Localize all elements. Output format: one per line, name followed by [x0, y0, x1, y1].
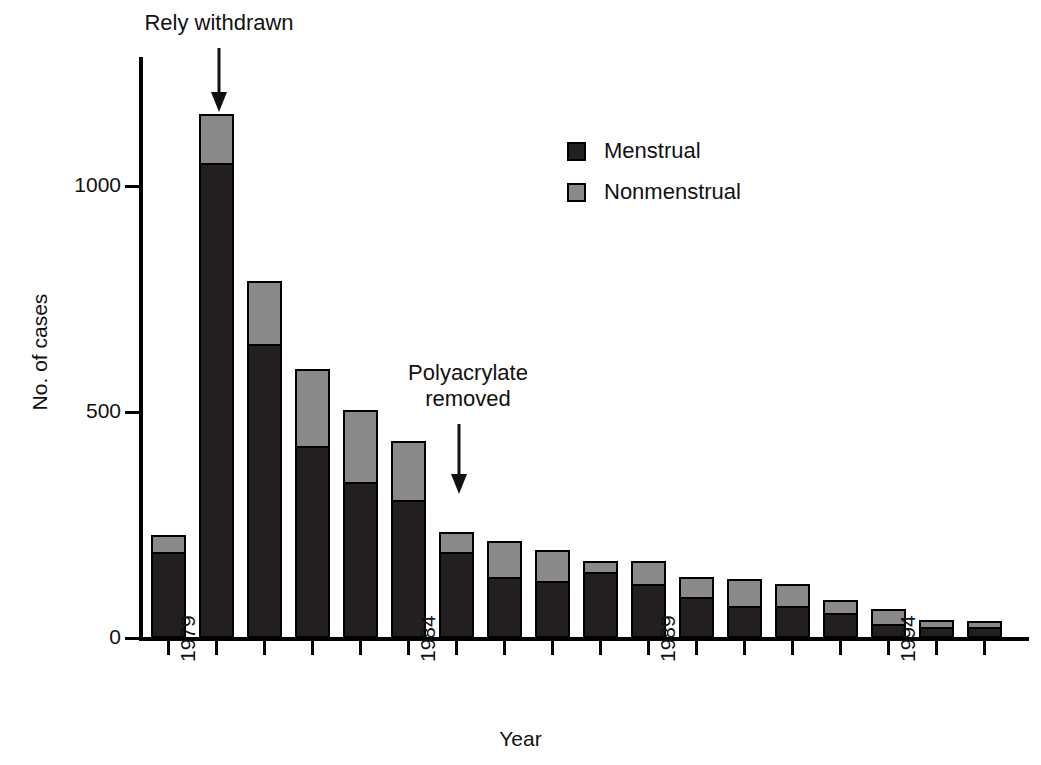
bar-segment-menstrual-1990 — [681, 595, 712, 636]
bar-1987 — [535, 550, 570, 638]
x-tick-1989 — [647, 641, 650, 655]
x-tick-1987 — [551, 641, 554, 655]
y-tick-1000 — [125, 185, 140, 188]
bar-segment-nonmenstrual-1995 — [921, 622, 952, 629]
down-arrow-icon — [442, 424, 476, 496]
bar-segment-nonmenstrual-1996 — [969, 623, 1000, 628]
y-axis-line — [139, 57, 143, 641]
bar-segment-nonmenstrual-1981 — [249, 283, 280, 346]
bar-1993 — [823, 600, 858, 638]
bar-segment-nonmenstrual-1992 — [777, 586, 808, 609]
y-tick-label-wrap-1000: 1000 — [0, 174, 121, 195]
bar-segment-nonmenstrual-1987 — [537, 552, 568, 584]
bar-segment-menstrual-1980 — [201, 161, 232, 636]
bar-1986 — [487, 541, 522, 638]
bar-segment-nonmenstrual-1990 — [681, 579, 712, 599]
bar-segment-menstrual-1987 — [537, 579, 568, 636]
x-tick-1980 — [215, 641, 218, 655]
bar-1990 — [679, 577, 714, 638]
bar-segment-menstrual-1986 — [489, 575, 520, 636]
x-tick-1984 — [407, 641, 410, 655]
bar-1991 — [727, 579, 762, 638]
bar-segment-nonmenstrual-1986 — [489, 543, 520, 579]
bar-segment-nonmenstrual-1982 — [297, 371, 328, 448]
bar-1983 — [343, 410, 378, 638]
x-tick-1988 — [599, 641, 602, 655]
y-tick-label-1000: 1000 — [74, 174, 121, 195]
legend: Menstrual Nonmenstrual — [567, 140, 741, 222]
bar-segment-nonmenstrual-1980 — [201, 116, 232, 166]
bar-segment-menstrual-1992 — [777, 604, 808, 636]
x-tick-1994 — [887, 641, 890, 655]
x-tick-1979 — [167, 641, 170, 655]
bar-segment-menstrual-1991 — [729, 604, 760, 636]
annotation-rely-withdrawn: Rely withdrawn — [104, 10, 334, 36]
bar-1988 — [583, 561, 618, 638]
x-tick-1992 — [791, 641, 794, 655]
annotation-polyacrylate-removed-text: Polyacrylate removed — [378, 360, 558, 412]
legend-item-menstrual: Menstrual — [567, 140, 741, 162]
bar-1992 — [775, 584, 810, 638]
x-tick-label-1994: 1994 — [897, 615, 918, 662]
bar-segment-nonmenstrual-1979 — [153, 537, 184, 554]
bar-1995 — [919, 620, 954, 638]
down-arrow-icon — [202, 48, 236, 114]
bar-segment-nonmenstrual-1984 — [393, 443, 424, 502]
figure-stacked-bar-chart: 0 500 1000 No. of cases Year 19791984198… — [0, 0, 1041, 765]
x-tick-1993 — [839, 641, 842, 655]
y-tick-label-500: 500 — [86, 400, 121, 421]
x-tick-1986 — [503, 641, 506, 655]
x-tick-1981 — [263, 641, 266, 655]
bar-segment-menstrual-1982 — [297, 444, 328, 636]
bar-segment-menstrual-1981 — [249, 342, 280, 636]
bar-segment-nonmenstrual-1983 — [345, 412, 376, 484]
x-tick-1983 — [359, 641, 362, 655]
x-tick-label-1989: 1989 — [657, 615, 678, 662]
x-tick-label-1984: 1984 — [417, 615, 438, 662]
legend-swatch-nonmenstrual — [567, 183, 586, 202]
legend-item-nonmenstrual: Nonmenstrual — [567, 181, 741, 203]
y-tick-500 — [125, 411, 140, 414]
bar-segment-nonmenstrual-1989 — [633, 563, 664, 586]
bar-segment-nonmenstrual-1993 — [825, 602, 856, 616]
x-tick-1991 — [743, 641, 746, 655]
legend-label-nonmenstrual: Nonmenstrual — [604, 181, 741, 203]
annotation-polyacrylate-removed: Polyacrylate removed — [378, 360, 558, 412]
bar-1985 — [439, 532, 474, 638]
bar-1981 — [247, 281, 282, 638]
annotation-rely-withdrawn-text: Rely withdrawn — [104, 10, 334, 36]
x-tick-1996 — [983, 641, 986, 655]
bar-segment-nonmenstrual-1991 — [729, 581, 760, 608]
legend-label-menstrual: Menstrual — [604, 140, 701, 162]
bar-1996 — [967, 621, 1002, 638]
x-tick-1985 — [455, 641, 458, 655]
bar-1982 — [295, 369, 330, 638]
bar-1984 — [391, 441, 426, 638]
x-tick-1982 — [311, 641, 314, 655]
x-axis-title: Year — [0, 727, 1041, 751]
bar-segment-menstrual-1988 — [585, 570, 616, 636]
y-tick-label-wrap-0: 0 — [0, 626, 121, 647]
bar-segment-nonmenstrual-1988 — [585, 563, 616, 574]
y-tick-label-0: 0 — [109, 626, 121, 647]
bar-segment-menstrual-1985 — [441, 550, 472, 636]
bar-segment-nonmenstrual-1985 — [441, 534, 472, 554]
bar-segment-menstrual-1983 — [345, 480, 376, 636]
x-tick-label-1979: 1979 — [177, 615, 198, 662]
legend-swatch-menstrual — [567, 142, 586, 161]
x-tick-1995 — [935, 641, 938, 655]
plot-area: 0 500 1000 No. of cases Year 19791984198… — [0, 0, 1041, 765]
y-tick-0 — [125, 637, 140, 640]
bar-1980 — [199, 114, 234, 638]
y-axis-title: No. of cases — [28, 252, 52, 452]
x-tick-1990 — [695, 641, 698, 655]
y-tick-label-wrap-500: 500 — [0, 400, 121, 421]
